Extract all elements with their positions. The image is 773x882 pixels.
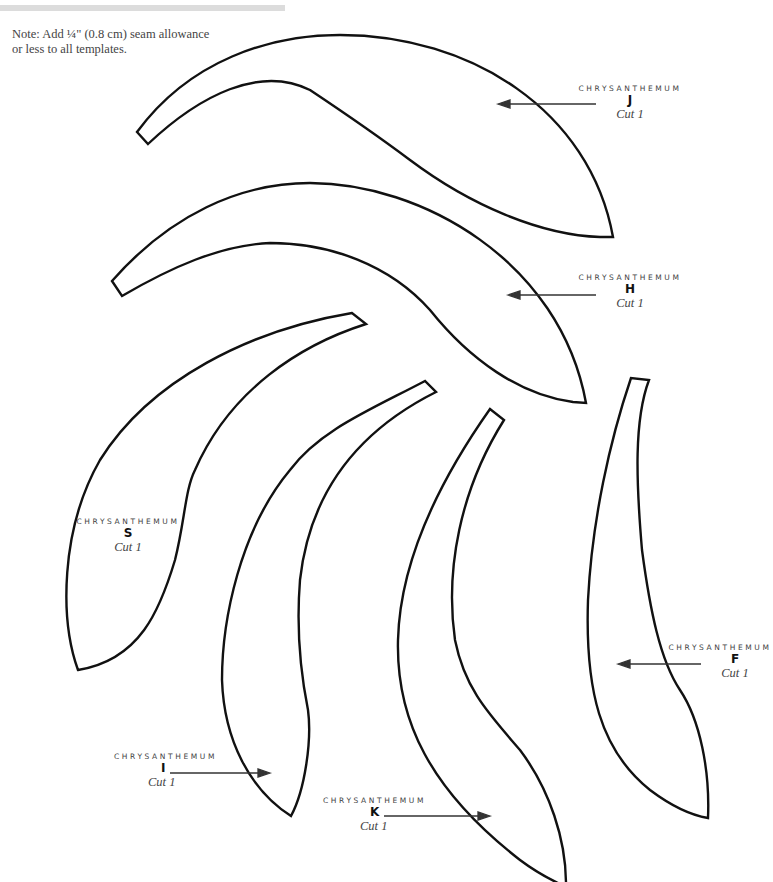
label-cut: Cut 1 [560, 296, 700, 310]
label-cut: Cut 1 [690, 666, 773, 680]
label-letter: S [58, 526, 198, 540]
label-s: CHRYSANTHEMUM S Cut 1 [58, 517, 198, 554]
label-j: CHRYSANTHEMUM J Cut 1 [560, 84, 700, 121]
label-name: CHRYSANTHEMUM [323, 796, 445, 805]
label-cut: Cut 1 [148, 775, 236, 789]
label-h: CHRYSANTHEMUM H Cut 1 [560, 273, 700, 310]
label-cut: Cut 1 [58, 540, 198, 554]
label-cut: Cut 1 [360, 819, 445, 833]
label-letter: J [560, 93, 700, 107]
template-shape-s [66, 313, 366, 670]
label-name: CHRYSANTHEMUM [58, 517, 198, 526]
label-letter: I [161, 761, 236, 775]
label-letter: F [690, 652, 773, 666]
template-shape-i [222, 381, 436, 816]
label-name: CHRYSANTHEMUM [660, 643, 773, 652]
template-shape-f [588, 378, 709, 818]
label-cut: Cut 1 [560, 107, 700, 121]
label-k: CHRYSANTHEMUM K Cut 1 [305, 796, 445, 833]
label-f: CHRYSANTHEMUM F Cut 1 [660, 643, 773, 680]
label-letter: K [370, 805, 445, 819]
label-name: CHRYSANTHEMUM [560, 273, 700, 282]
label-i: CHRYSANTHEMUM I Cut 1 [96, 752, 236, 789]
label-name: CHRYSANTHEMUM [560, 84, 700, 93]
label-letter: H [560, 282, 700, 296]
label-name: CHRYSANTHEMUM [114, 752, 236, 761]
